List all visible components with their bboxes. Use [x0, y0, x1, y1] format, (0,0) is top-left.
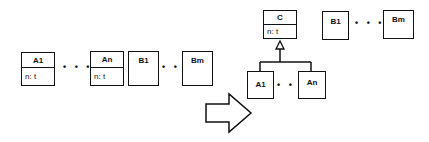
class-attribute: n: t	[94, 72, 105, 81]
class-name: B1	[129, 56, 158, 65]
ellipsis-left-a: • • •	[63, 62, 92, 72]
subclass-box-an: An	[298, 71, 326, 99]
class-box-bm-right: Bm	[383, 10, 414, 39]
class-name: Bm	[384, 15, 413, 24]
class-box-b1-left: B1	[128, 51, 159, 86]
class-box-a1-left: A1 n: t	[21, 52, 55, 86]
class-name: A1	[248, 80, 273, 89]
class-name: B1	[323, 17, 348, 26]
class-box-bm-left: Bm	[182, 51, 213, 86]
class-name: Bm	[183, 56, 212, 65]
inheritance-connector	[260, 49, 311, 71]
ellipsis-right-b: • • •	[355, 18, 384, 28]
subclass-box-a1: A1	[247, 71, 274, 99]
class-box-b1-right: B1	[322, 11, 349, 40]
divider	[91, 67, 123, 68]
right-arrow-icon	[206, 94, 251, 132]
class-attribute: n: t	[267, 27, 278, 36]
class-box-an-left: An n: t	[90, 51, 124, 86]
divider	[22, 67, 54, 68]
class-name: An	[91, 55, 123, 64]
class-name: C	[264, 13, 296, 22]
class-attribute: n: t	[25, 72, 36, 81]
class-name: A1	[22, 56, 54, 65]
class-name: An	[299, 78, 325, 87]
inheritance-triangle-icon	[276, 41, 284, 49]
divider	[264, 24, 296, 25]
superclass-box-c: C n: t	[263, 10, 297, 39]
